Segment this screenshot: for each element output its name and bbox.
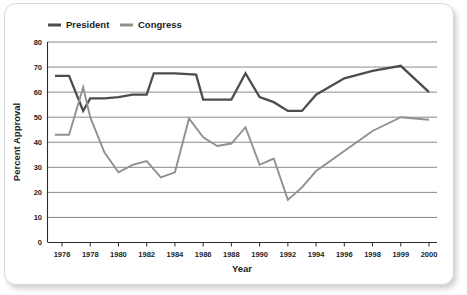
x-axis-ticks	[62, 243, 429, 247]
chart-legend: President Congress	[48, 19, 182, 30]
y-tick-label: 60	[34, 88, 42, 97]
approval-line-chart: President Congress 01020304050607080 197…	[0, 0, 467, 295]
series-line-president	[55, 66, 429, 111]
x-tick-label: 1988	[223, 250, 240, 259]
x-tick-label: 1982	[138, 250, 155, 259]
x-tick-label: 2000	[421, 250, 438, 259]
x-tick-label: 1986	[195, 250, 212, 259]
x-tick-label: 1984	[167, 250, 185, 259]
legend-label-president: President	[66, 19, 110, 30]
x-tick-label: 1980	[110, 250, 127, 259]
series-line-congress	[55, 87, 429, 200]
y-axis-title: Percent Approval	[11, 103, 22, 181]
y-axis-tick-labels: 01020304050607080	[34, 38, 42, 248]
x-axis-title: Year	[232, 263, 252, 274]
chart-figure: President Congress 01020304050607080 197…	[0, 0, 467, 295]
y-tick-label: 70	[34, 63, 42, 72]
y-tick-label: 10	[34, 213, 42, 222]
x-tick-label: 1998	[364, 250, 381, 259]
chart-series-group	[55, 66, 429, 200]
x-tick-label: 1994	[308, 250, 326, 259]
y-tick-label: 40	[34, 138, 42, 147]
x-tick-label: 1996	[336, 250, 353, 259]
legend-label-congress: Congress	[138, 19, 182, 30]
x-tick-label: 1992	[280, 250, 297, 259]
y-tick-label: 30	[34, 163, 42, 172]
x-tick-label: 1990	[251, 250, 268, 259]
y-tick-label: 50	[34, 113, 42, 122]
x-tick-label: 1978	[82, 250, 99, 259]
y-tick-label: 0	[38, 238, 42, 247]
x-tick-label: 1976	[54, 250, 71, 259]
y-tick-label: 20	[34, 188, 42, 197]
y-tick-label: 80	[34, 38, 42, 47]
x-tick-label: 1999	[392, 250, 409, 259]
x-axis-tick-labels: 1976197819801982198419861988199019921994…	[54, 250, 438, 259]
